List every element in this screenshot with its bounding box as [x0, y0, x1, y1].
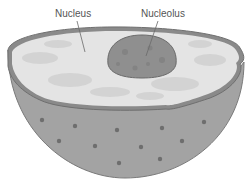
nucleolus-label: Nucleolus — [141, 9, 185, 19]
nucleus-illustration — [0, 0, 249, 183]
nucleolus — [108, 35, 176, 78]
nucleus-label: Nucleus — [55, 9, 91, 19]
nucleus-diagram: Nucleus Nucleolus — [0, 0, 249, 183]
